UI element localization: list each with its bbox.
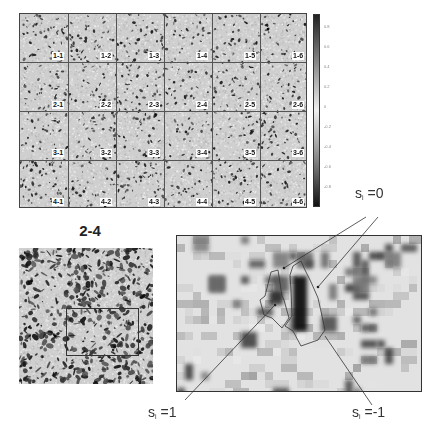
zoom-region-rectangle (66, 308, 139, 356)
cell-label: 4-4 (196, 198, 208, 206)
colorbar-tick-label: 0 (324, 104, 326, 109)
cell-label: 4-1 (52, 198, 64, 206)
grid-divider (20, 62, 306, 63)
cell-label: 3-4 (196, 149, 208, 157)
cell-label: 2-3 (148, 101, 160, 109)
zoom-panel (19, 248, 153, 384)
cell-label: 2-5 (244, 101, 256, 109)
colorbar-tick-label: -0.8 (324, 184, 331, 189)
colorbar-tick-label: -0.2 (324, 124, 331, 129)
cell-label: 3-6 (292, 149, 304, 157)
cell-label: 1-2 (100, 52, 112, 60)
cell-label: 2-4 (196, 101, 208, 109)
colorbar-tick-label: 0.4 (324, 64, 330, 69)
colorbar-tick-label: 0.8 (324, 24, 330, 29)
cell-label: 2-1 (52, 101, 64, 109)
colorbar-tick-label: -0.4 (324, 144, 331, 149)
cell-label: 4-5 (244, 198, 256, 206)
annotation-s1: si =1 (148, 404, 176, 420)
cell-label: 3-5 (244, 149, 256, 157)
zoom-panel-title: 2-4 (50, 222, 130, 239)
cell-label: 4-2 (100, 198, 112, 206)
cell-label: 1-1 (52, 52, 64, 60)
colorbar-tick-label: 0.6 (324, 44, 330, 49)
annotation-s0: si =0 (355, 185, 383, 201)
cell-label: 3-3 (148, 149, 160, 157)
texture-grid-panel: 1-11-21-31-41-51-62-12-22-32-42-52-63-13… (19, 13, 307, 208)
colorbar (313, 14, 320, 207)
detail-heatmap-image (177, 236, 422, 392)
grid-divider (20, 160, 306, 161)
cell-label: 1-5 (244, 52, 256, 60)
cell-label: 3-1 (52, 149, 64, 157)
colorbar-tick-label: -0.6 (324, 164, 331, 169)
cell-label: 3-2 (100, 149, 112, 157)
detail-heatmap-panel (176, 235, 422, 392)
cell-label: 4-3 (148, 198, 160, 206)
cell-label: 1-4 (196, 52, 208, 60)
cell-label: 1-3 (148, 52, 160, 60)
grid-divider (20, 111, 306, 112)
colorbar-tick-label: 0.2 (324, 84, 330, 89)
cell-label: 2-2 (100, 101, 112, 109)
cell-label: 2-6 (292, 101, 304, 109)
annotation-s-minus1: si =-1 (352, 404, 385, 420)
cell-label: 1-6 (292, 52, 304, 60)
cell-label: 4-6 (292, 198, 304, 206)
